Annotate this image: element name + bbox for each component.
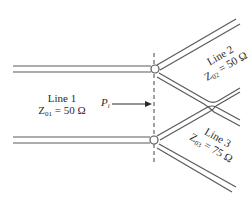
upper-junction-node bbox=[151, 65, 159, 73]
line1-impedance: Z01 = 50 Ω bbox=[33, 104, 91, 120]
line1-name: Line 1 bbox=[33, 92, 91, 104]
lower-junction-node bbox=[150, 136, 158, 144]
line1-label: Line 1 Z01 = 50 Ω bbox=[33, 92, 91, 120]
line2-lower-branch-a bbox=[159, 73, 240, 102]
arrow-right-icon bbox=[145, 101, 152, 107]
incident-power-label: Pi bbox=[101, 96, 110, 112]
